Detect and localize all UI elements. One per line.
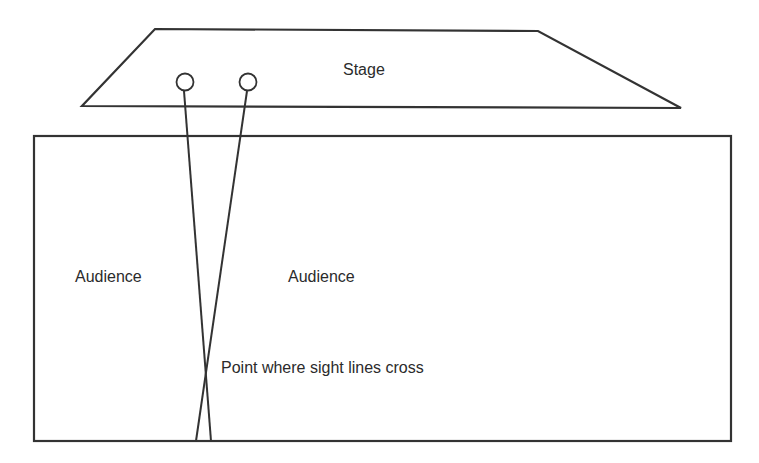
sight-line-right (196, 91, 247, 441)
audience-right-label: Audience (288, 268, 355, 285)
sight-line-left (184, 91, 211, 441)
sight-lines-diagram: Stage Audience Audience Point where sigh… (0, 0, 759, 463)
stage-label: Stage (343, 61, 385, 78)
performer-right-marker (240, 74, 257, 91)
audience-area (34, 136, 731, 441)
audience-left-label: Audience (75, 268, 142, 285)
performer-left-marker (177, 74, 194, 91)
crossing-point-label: Point where sight lines cross (221, 359, 424, 376)
